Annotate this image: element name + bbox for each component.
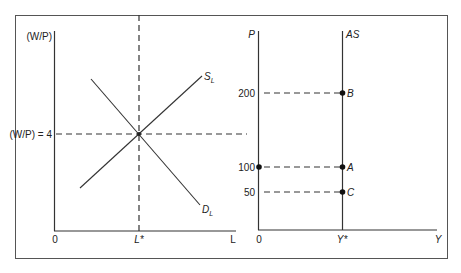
as-y-axis-label: P — [248, 29, 255, 40]
point-a — [340, 164, 346, 170]
point-c — [340, 189, 346, 195]
as-eq-output-label: Y* — [337, 234, 349, 245]
diagram-canvas: (W/P) (W/P) = 4 0 L* L SL DL P AS 200 10… — [0, 0, 461, 273]
labor-eq-wage-label: (W/P) = 4 — [9, 129, 52, 140]
price-tick-200: 200 — [238, 88, 255, 99]
as-x-axis-label: Y — [435, 234, 443, 245]
point-b-label: B — [347, 88, 354, 99]
labor-eq-quantity-label: L* — [134, 234, 145, 245]
point-b — [340, 90, 346, 96]
labor-x-axis-label: L — [230, 234, 236, 245]
labor-supply-curve — [80, 76, 202, 188]
point-c-label: C — [347, 187, 355, 198]
labor-origin-label: 0 — [52, 234, 58, 245]
labor-supply-label: SL — [204, 71, 215, 84]
labor-equilibrium-point — [137, 132, 141, 136]
point-a-label: A — [346, 162, 354, 173]
labor-demand-curve — [91, 79, 200, 205]
figure-frame — [16, 16, 448, 259]
as-curve-label: AS — [345, 29, 360, 40]
labor-demand-label: DL — [202, 204, 213, 217]
as-origin-label: 0 — [256, 234, 262, 245]
aggregate-supply-panel: P AS 200 100 50 B A C 0 Y* Y — [238, 29, 442, 245]
price-tick-50: 50 — [244, 187, 256, 198]
price-100-axis-point — [256, 164, 262, 170]
labor-y-axis-label: (W/P) — [26, 31, 52, 42]
price-tick-100: 100 — [238, 162, 255, 173]
labor-market-panel: (W/P) (W/P) = 4 0 L* L SL DL — [9, 15, 247, 245]
